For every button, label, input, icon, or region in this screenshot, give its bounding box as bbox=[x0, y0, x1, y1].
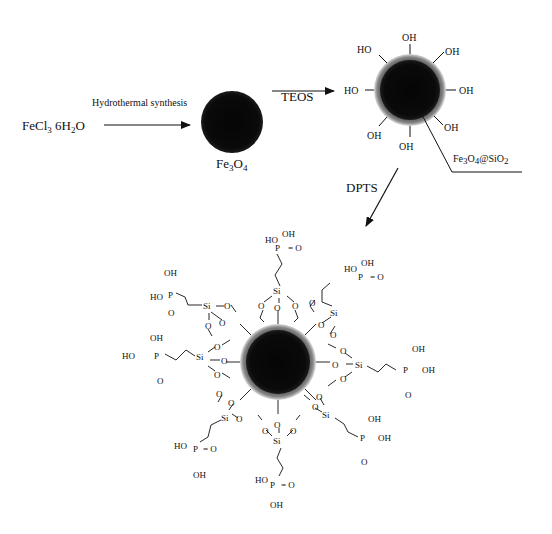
svg-text:O: O bbox=[221, 356, 228, 366]
svg-text:O: O bbox=[216, 389, 223, 399]
svg-text:Si: Si bbox=[196, 352, 204, 362]
svg-text:OH: OH bbox=[445, 46, 459, 57]
svg-text:O: O bbox=[309, 298, 316, 308]
svg-text:P: P bbox=[358, 272, 363, 282]
svg-text:OH: OH bbox=[367, 130, 381, 141]
svg-text:P: P bbox=[275, 243, 280, 253]
svg-text:O: O bbox=[236, 414, 243, 424]
svg-text:O: O bbox=[340, 374, 347, 384]
svg-text:OH: OH bbox=[282, 229, 295, 239]
svg-text:O: O bbox=[262, 426, 269, 436]
svg-text:O: O bbox=[405, 390, 412, 400]
svg-text:Si: Si bbox=[203, 301, 211, 311]
svg-text:OH: OH bbox=[361, 258, 374, 268]
svg-text:OH: OH bbox=[444, 122, 458, 133]
fe3o4-sio2-particle: OH OH OH OH OH OH HO HO bbox=[344, 32, 473, 152]
svg-text:= O: = O bbox=[288, 243, 302, 253]
svg-text:P: P bbox=[360, 433, 365, 443]
svg-text:P: P bbox=[168, 290, 173, 300]
svg-text:= O: = O bbox=[203, 444, 217, 454]
svg-text:OH: OH bbox=[459, 85, 473, 96]
svg-text:O: O bbox=[228, 398, 235, 408]
svg-text:= O: = O bbox=[370, 272, 384, 282]
functionalized-particle: HOOH P = O Si OOO HOOH P= O Si OOO HOOH … bbox=[122, 229, 435, 510]
svg-text:OH: OH bbox=[193, 470, 206, 480]
svg-text:HO: HO bbox=[122, 351, 135, 361]
svg-text:OH: OH bbox=[399, 141, 413, 152]
svg-text:P: P bbox=[193, 444, 198, 454]
svg-text:OH: OH bbox=[378, 433, 391, 443]
dpts-label: DPTS bbox=[346, 180, 378, 195]
svg-text:O: O bbox=[157, 376, 164, 386]
fe3o4-sio2-label: Fe3O4@SiO2 bbox=[453, 153, 509, 166]
svg-text:OH: OH bbox=[402, 32, 416, 43]
hydrothermal-label: Hydrothermal synthesis bbox=[92, 97, 187, 108]
svg-text:Si: Si bbox=[273, 436, 281, 446]
svg-text:O: O bbox=[274, 303, 281, 313]
svg-text:Si: Si bbox=[221, 413, 229, 423]
fe3o4-particle bbox=[201, 91, 263, 153]
svg-text:OH: OH bbox=[164, 268, 177, 278]
reaction-scheme: FeCl3 6H2O Hydrothermal synthesis Fe3O4 … bbox=[0, 0, 552, 534]
svg-text:O: O bbox=[214, 342, 221, 352]
svg-text:OH: OH bbox=[422, 365, 435, 375]
svg-text:O: O bbox=[361, 457, 368, 467]
svg-text:HO: HO bbox=[150, 292, 163, 302]
svg-text:O: O bbox=[318, 320, 325, 330]
arrow-step3 bbox=[366, 168, 398, 226]
svg-text:OH: OH bbox=[150, 333, 163, 343]
svg-text:HO: HO bbox=[344, 264, 357, 274]
svg-text:O: O bbox=[330, 330, 337, 340]
svg-text:P: P bbox=[270, 480, 275, 490]
svg-text:P: P bbox=[403, 365, 408, 375]
svg-text:OH: OH bbox=[270, 500, 283, 510]
svg-text:O: O bbox=[214, 370, 221, 380]
svg-text:OH: OH bbox=[368, 414, 381, 424]
svg-text:O: O bbox=[205, 321, 212, 331]
svg-text:= O: = O bbox=[281, 480, 295, 490]
svg-text:Si: Si bbox=[322, 410, 330, 420]
fe3o4-label: Fe3O4 bbox=[216, 156, 248, 173]
svg-text:O: O bbox=[340, 346, 347, 356]
svg-text:O: O bbox=[290, 426, 297, 436]
svg-text:O: O bbox=[274, 420, 281, 430]
svg-text:OH: OH bbox=[412, 344, 425, 354]
svg-text:HO: HO bbox=[357, 44, 371, 55]
svg-text:HO: HO bbox=[344, 85, 358, 96]
svg-text:O: O bbox=[224, 301, 231, 311]
svg-text:O: O bbox=[219, 318, 226, 328]
svg-text:HO: HO bbox=[174, 441, 187, 451]
svg-text:O: O bbox=[168, 308, 175, 318]
svg-text:O: O bbox=[316, 392, 323, 402]
svg-text:Si: Si bbox=[355, 360, 363, 370]
svg-text:Si: Si bbox=[330, 308, 338, 318]
svg-text:Si: Si bbox=[273, 286, 281, 296]
svg-text:O: O bbox=[292, 301, 299, 311]
svg-text:FeCl3 6H2O: FeCl3 6H2O bbox=[22, 118, 85, 135]
svg-text:O: O bbox=[332, 360, 339, 370]
svg-text:O: O bbox=[312, 402, 319, 412]
svg-text:HO: HO bbox=[255, 475, 268, 485]
svg-text:O: O bbox=[258, 301, 265, 311]
reactant-fecl3: FeCl3 6H2O bbox=[22, 118, 85, 135]
svg-text:P: P bbox=[154, 351, 159, 361]
